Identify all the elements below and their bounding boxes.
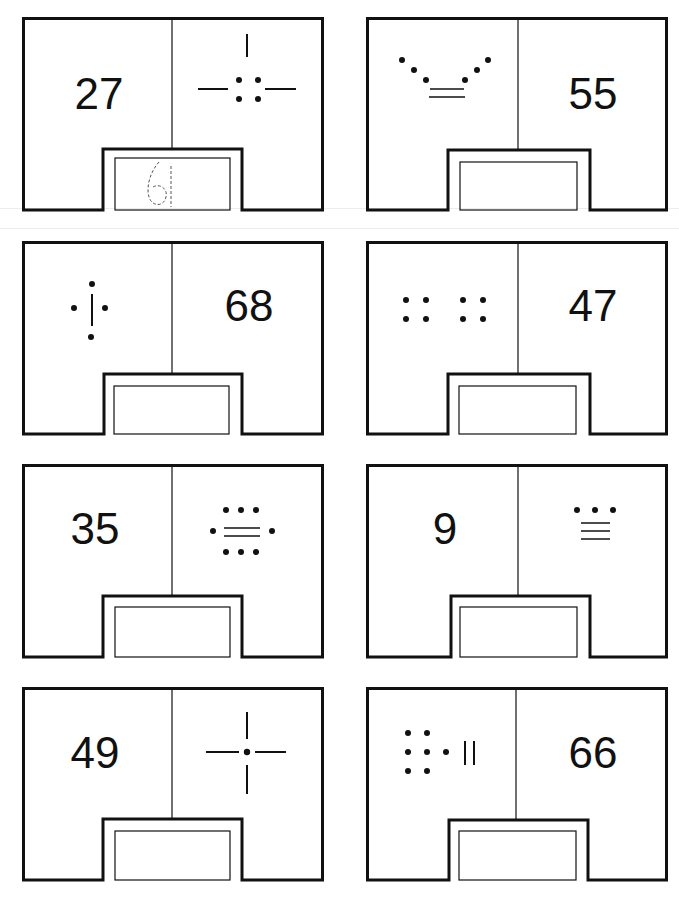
arabic-number: 35: [20, 507, 170, 551]
arabic-number: 68: [174, 284, 324, 328]
arabic-number: 9: [370, 507, 520, 551]
arabic-number: 47: [518, 284, 668, 328]
mayan-numeral-icon: [574, 507, 616, 539]
answer-box[interactable]: [114, 386, 229, 434]
card-6: 9: [366, 464, 668, 658]
arabic-number: 27: [24, 72, 174, 116]
card-1: 27: [22, 17, 324, 211]
mayan-numeral-icon: [198, 34, 296, 102]
arabic-number: 55: [518, 72, 668, 116]
card-3: 68: [22, 241, 324, 435]
answer-box[interactable]: [115, 831, 230, 880]
answer-box[interactable]: [115, 607, 230, 657]
answer-box[interactable]: [460, 162, 577, 210]
card-7: 49: [22, 687, 324, 881]
mayan-numeral-icon: [210, 507, 275, 555]
mayan-numeral-icon: [71, 281, 108, 340]
card-5: 35: [22, 464, 324, 658]
card-2: 55: [366, 17, 668, 211]
mayan-numeral-icon: [206, 712, 286, 794]
mayan-numeral-icon: [403, 297, 486, 322]
mayan-numeral-icon: [399, 57, 491, 97]
arabic-number: 66: [518, 731, 668, 775]
arabic-number: 49: [20, 731, 170, 775]
answer-box[interactable]: [459, 831, 576, 880]
card-8: 66: [366, 687, 668, 881]
answer-box[interactable]: [115, 158, 230, 210]
answer-box[interactable]: [459, 386, 576, 434]
answer-box[interactable]: [460, 607, 577, 657]
card-4: 47: [366, 241, 668, 435]
mayan-numeral-icon: [405, 730, 474, 774]
